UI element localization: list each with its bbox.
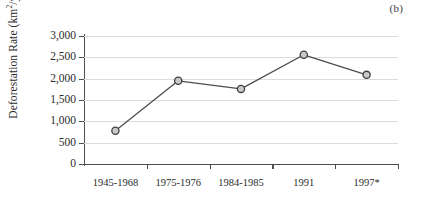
y-tick-label: 1,500 — [50, 94, 76, 106]
y-tick-label: 1,000 — [50, 116, 76, 128]
data-point-marker — [112, 127, 119, 134]
x-tick-mark — [147, 164, 148, 169]
figure-panel-b: (b) Deforestation Rate (km2/year) 05001,… — [0, 0, 425, 208]
y-axis-title: Deforestation Rate (km2/year) — [7, 0, 19, 123]
x-tick-mark — [398, 164, 399, 169]
x-tick-label: 1975-1976 — [155, 178, 201, 189]
y-tick-label: 0 — [70, 158, 76, 170]
y-tick-label: 2,500 — [50, 52, 76, 64]
x-tick-mark — [210, 164, 211, 169]
y-axis-title-superscript: 2 — [5, 5, 14, 9]
data-point-marker — [175, 77, 182, 84]
data-point-marker — [300, 51, 307, 58]
y-tick-mark — [79, 164, 84, 165]
x-tick-label: 1945-1968 — [93, 178, 139, 189]
y-axis-title-prefix: Deforestation Rate (km — [7, 9, 19, 119]
x-tick-mark — [335, 164, 336, 169]
y-tick-label: 500 — [59, 137, 76, 149]
plot-area: 05001,0001,5002,0002,5003,000 1945-19681… — [84, 36, 398, 164]
data-point-marker — [363, 71, 370, 78]
y-axis-title-suffix: /year) — [7, 0, 19, 5]
x-tick-mark — [272, 164, 273, 169]
panel-label: (b) — [390, 2, 403, 14]
data-point-marker — [237, 85, 244, 92]
x-tick-label: 1997* — [353, 178, 379, 189]
x-tick-label: 1991 — [293, 178, 314, 189]
y-tick-label: 2,000 — [50, 73, 76, 85]
data-series-deforestation-rate — [84, 36, 398, 164]
x-axis-line — [84, 164, 398, 165]
x-tick-label: 1984-1985 — [218, 178, 264, 189]
y-tick-label: 3,000 — [50, 30, 76, 42]
